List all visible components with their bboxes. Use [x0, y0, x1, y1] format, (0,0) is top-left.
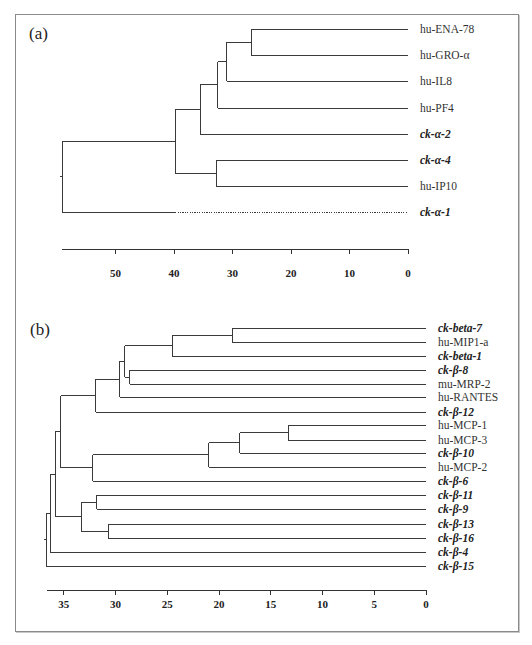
leaf-label: hu-MIP1-a [438, 336, 488, 348]
leaf-labels-b: ck-beta-7hu-MIP1-ack-beta-1ck-β-8mu-MRP-… [438, 322, 498, 573]
tick-label: 30 [110, 598, 122, 610]
leaf-label: ck-α-2 [420, 128, 451, 140]
leaf-label: ck-β-11 [438, 489, 473, 502]
leaf-label: ck-β-13 [438, 518, 474, 531]
leaf-label: ck-β-8 [438, 364, 468, 377]
panel-label-b: (b) [30, 320, 50, 339]
tick-label: 10 [344, 267, 356, 279]
leaf-label: hu-RANTES [438, 391, 498, 403]
leaf-label: ck-β-6 [438, 475, 468, 488]
tree-a [60, 29, 408, 212]
tick-label: 20 [286, 267, 298, 279]
tick-label: 20 [214, 598, 226, 610]
leaf-label: ck-α-1 [420, 206, 451, 218]
dendrogram-figure: (a) hu-ENA-78hu-GRO-αhu-IL8hu-PF4ck-α-2c… [0, 0, 532, 645]
leaf-label: hu-GRO-α [420, 49, 469, 61]
leaf-label: ck-β-9 [438, 503, 468, 516]
leaf-label: hu-ENA-78 [420, 23, 475, 35]
tick-label: 10 [317, 598, 329, 610]
leaf-label: mu-MRP-2 [438, 378, 491, 390]
distance-axis-a: 50403020100 [62, 249, 411, 279]
leaf-label: ck-β-12 [438, 406, 474, 419]
leaf-label: hu-MCP-2 [438, 461, 487, 473]
tick-label: 25 [162, 598, 174, 610]
tick-label: 40 [169, 267, 181, 279]
leaf-label: hu-IP10 [420, 180, 457, 192]
tick-label: 0 [405, 267, 411, 279]
leaf-label: ck-β-16 [438, 532, 474, 545]
leaf-label: hu-IL8 [420, 75, 452, 87]
leaf-label: ck-β-4 [438, 546, 468, 559]
tick-label: 50 [110, 267, 122, 279]
leaf-label: ck-beta-1 [438, 350, 482, 362]
leaf-label: ck-β-10 [438, 447, 474, 460]
tick-label: 0 [423, 598, 429, 610]
tick-label: 35 [58, 598, 70, 610]
dendrogram-panel-a: (a) hu-ENA-78hu-GRO-αhu-IL8hu-PF4ck-α-2c… [29, 23, 475, 279]
leaf-label: ck-β-15 [438, 560, 474, 573]
dendrogram-panel-b: (b) ck-beta-7hu-MIP1-ack-beta-1ck-β-8mu-… [30, 320, 498, 610]
leaf-label: ck-beta-7 [438, 322, 483, 334]
leaf-label: hu-PF4 [420, 102, 454, 114]
tree-b [44, 328, 426, 566]
leaf-label: ck-α-4 [420, 154, 451, 166]
panel-label-a: (a) [29, 24, 48, 43]
tick-label: 15 [265, 598, 277, 610]
tick-label: 5 [372, 598, 378, 610]
distance-axis-b: 35302520151050 [47, 590, 429, 610]
leaf-label: hu-MCP-1 [438, 419, 487, 431]
leaf-labels-a: hu-ENA-78hu-GRO-αhu-IL8hu-PF4ck-α-2ck-α-… [420, 23, 475, 218]
leaf-label: hu-MCP-3 [438, 434, 487, 446]
tick-label: 30 [227, 267, 239, 279]
